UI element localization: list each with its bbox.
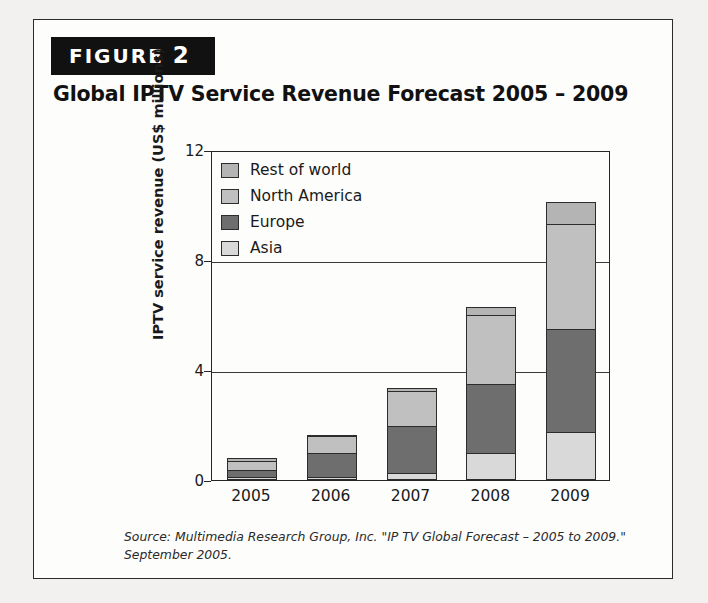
y-axis-ticks: 04812 — [158, 151, 204, 481]
page-background: FIGURE2 Global IPTV Service Revenue Fore… — [0, 0, 708, 603]
bar-segment-europe — [546, 329, 596, 432]
bar-segment-europe — [466, 384, 516, 453]
bar-segment-north-america — [307, 436, 357, 453]
y-tick-label: 12 — [164, 142, 204, 160]
bar-segment-europe — [387, 426, 437, 473]
y-tick-label: 8 — [164, 252, 204, 270]
y-tick-mark — [204, 261, 211, 262]
chart-area: IPTV service revenue (US$ millions) 0481… — [90, 133, 630, 533]
y-tick-label: 0 — [164, 472, 204, 490]
y-tick-label: 4 — [164, 362, 204, 380]
legend-swatch-icon — [221, 215, 239, 230]
bar-group-2008 — [466, 152, 516, 480]
legend-swatch-icon — [221, 241, 239, 256]
chart-title: Global IPTV Service Revenue Forecast 200… — [53, 82, 628, 106]
bar-segment-north-america — [546, 224, 596, 329]
legend-label: Rest of world — [250, 161, 351, 179]
bar-segment-asia — [387, 473, 437, 480]
legend-label: Europe — [250, 213, 305, 231]
bar-stack — [546, 202, 596, 480]
legend-item-asia: Asia — [221, 235, 401, 261]
legend-item-europe: Europe — [221, 209, 401, 235]
legend-swatch-icon — [221, 163, 239, 178]
source-note: Source: Multimedia Research Group, Inc. … — [124, 528, 644, 563]
bar-segment-asia — [227, 477, 277, 480]
y-tick-mark — [204, 481, 211, 482]
x-tick-label: 2006 — [311, 487, 350, 505]
bar-segment-rest-of-world — [546, 202, 596, 224]
y-tick-mark — [204, 371, 211, 372]
bar-segment-asia — [307, 477, 357, 480]
figure-badge: FIGURE2 — [51, 37, 215, 75]
bar-segment-europe — [307, 453, 357, 477]
legend-item-north-america: North America — [221, 183, 401, 209]
bar-segment-north-america — [466, 315, 516, 384]
chart-legend: Rest of worldNorth AmericaEuropeAsia — [221, 157, 401, 261]
legend-swatch-icon — [221, 189, 239, 204]
x-tick-label: 2008 — [471, 487, 510, 505]
x-tick-label: 2005 — [231, 487, 270, 505]
legend-label: Asia — [250, 239, 282, 257]
figure-frame: FIGURE2 Global IPTV Service Revenue Fore… — [33, 19, 673, 579]
legend-label: North America — [250, 187, 362, 205]
bar-stack — [307, 435, 357, 480]
figure-badge-number: 2 — [173, 42, 189, 68]
bar-segment-north-america — [227, 461, 277, 471]
x-tick-label: 2007 — [391, 487, 430, 505]
bar-group-2009 — [546, 152, 596, 480]
y-tick-mark — [204, 151, 211, 152]
x-tick-label: 2009 — [550, 487, 589, 505]
bar-segment-europe — [227, 470, 277, 477]
bar-segment-north-america — [387, 391, 437, 427]
legend-item-rest-of-world: Rest of world — [221, 157, 401, 183]
bar-stack — [227, 458, 277, 480]
bar-segment-rest-of-world — [466, 307, 516, 315]
bar-segment-asia — [466, 453, 516, 481]
bar-stack — [466, 307, 516, 480]
bar-stack — [387, 388, 437, 480]
bar-segment-asia — [546, 432, 596, 480]
